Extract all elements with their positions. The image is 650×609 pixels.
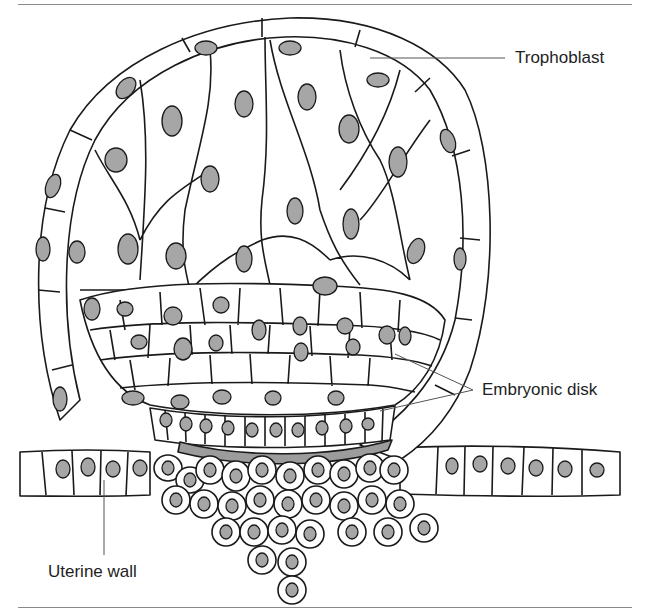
- label-uterine-wall: Uterine wall: [48, 563, 137, 580]
- blastocyst-implantation-diagram: [0, 0, 650, 609]
- label-trophoblast: Trophoblast: [515, 49, 604, 66]
- label-embryonic-disk: Embryonic disk: [482, 381, 597, 398]
- bottom-rule: [18, 607, 632, 608]
